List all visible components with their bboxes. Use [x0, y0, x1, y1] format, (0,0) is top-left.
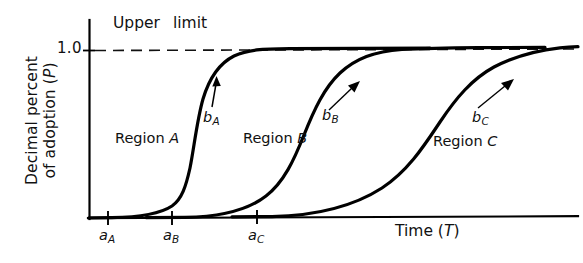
diffusion-adoption-figure: Decimal percent of adoption (P) 1.0 Uppe… [0, 0, 583, 263]
region-c-label: Region C [433, 134, 497, 149]
y-axis-label-line2: of adoption (P) [42, 36, 58, 206]
region-a-label: Region A [115, 131, 179, 146]
arrow-b-b [329, 81, 360, 110]
upper-limit-label: Upperlimit [113, 16, 207, 32]
y-tick-label-1.0: 1.0 [57, 41, 82, 56]
x-axis-label: Region ATime (T) [395, 224, 459, 240]
arrow-b-c [478, 79, 514, 108]
y-axis-label-line1: Decimal percent [25, 36, 41, 206]
arrow-b-a [212, 76, 221, 107]
rate-label-b-a: bA [203, 110, 220, 126]
region-b-label: Region B [243, 131, 307, 146]
x-tick-label-a-b: aB [163, 228, 179, 244]
x-tick-label-a-c: aC [248, 228, 264, 244]
x-tick-label-a-a: aA [99, 228, 115, 244]
y-axis-label: Decimal percent of adoption (P) [25, 36, 58, 206]
rate-label-b-c: bC [472, 110, 489, 126]
rate-label-b-b: bB [322, 108, 339, 124]
